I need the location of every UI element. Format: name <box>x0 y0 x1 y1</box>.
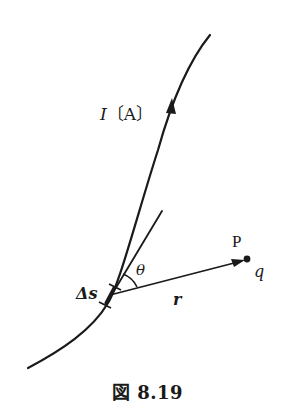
diagram-canvas <box>0 0 282 420</box>
vector-arrowhead-icon <box>231 259 245 267</box>
current-label: I〔A〕 <box>100 100 153 125</box>
segment-ds-label: Δs <box>76 284 97 303</box>
current-symbol: I <box>100 104 107 124</box>
vector-r-label: r <box>173 290 181 309</box>
angle-theta-label: θ <box>136 261 145 279</box>
angle-theta-arc <box>123 274 137 287</box>
point-p-label: P <box>232 232 241 252</box>
figure-caption: 図 8.19 <box>112 378 183 404</box>
point-p-dot <box>244 256 251 263</box>
current-unit: 〔A〕 <box>107 104 153 124</box>
current-wire-curve <box>28 35 210 368</box>
charge-q-label: q <box>254 262 264 281</box>
